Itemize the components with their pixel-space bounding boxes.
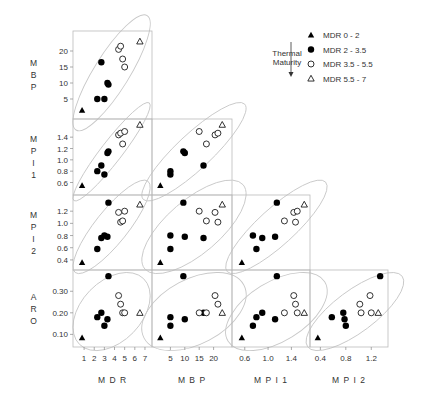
marker-filled-circle	[250, 323, 256, 329]
panel-frame	[152, 270, 232, 347]
marker-open-circle	[215, 130, 221, 136]
confidence-ellipse	[127, 164, 260, 289]
x-tick-label: 4	[112, 354, 117, 363]
legend-entry: MDR 5.5 - 7	[308, 75, 367, 84]
legend-title: Thermal	[272, 49, 302, 58]
marker-open-circle	[293, 301, 299, 307]
x-tick-label: 0.6	[239, 354, 251, 363]
y-axis-label: M	[30, 210, 38, 220]
marker-open-triangle	[137, 38, 143, 44]
marker-open-circle	[122, 310, 128, 316]
panel-frame	[73, 119, 152, 195]
marker-open-circle	[293, 219, 299, 225]
marker-open-circle	[357, 301, 363, 307]
marker-open-circle	[308, 61, 314, 67]
marker-open-circle	[215, 301, 221, 307]
y-tick-label: 15	[59, 63, 68, 72]
x-tick-label: 5	[122, 354, 127, 363]
marker-open-circle	[122, 208, 128, 214]
legend-label: MDR 2 - 3.5	[323, 46, 367, 55]
marker-filled-circle	[167, 232, 173, 238]
arrow-head-icon	[289, 72, 294, 77]
y-tick-label: 1.0	[57, 156, 69, 165]
y-axis-label: M	[30, 134, 38, 144]
panel-MPI2-vs-MPI1	[215, 169, 338, 286]
marker-filled-circle	[167, 171, 173, 177]
marker-filled-circle	[253, 246, 259, 252]
y-axis-label: I	[32, 158, 35, 168]
marker-filled-circle	[167, 246, 173, 252]
y-axis-label: A	[31, 292, 38, 302]
confidence-ellipse	[58, 258, 165, 366]
marker-open-circle	[122, 64, 128, 70]
panel-ARO-vs-MPI2	[295, 260, 414, 364]
marker-open-circle	[291, 293, 297, 299]
x-tick-label: 1.0	[263, 354, 275, 363]
marker-filled-circle	[200, 162, 206, 168]
y-tick-label: 1.0	[57, 219, 69, 228]
marker-filled-circle	[98, 59, 104, 65]
marker-open-triangle	[137, 122, 143, 128]
panel-frame	[73, 270, 152, 347]
marker-filled-circle	[180, 273, 186, 279]
marker-filled-circle	[105, 199, 111, 205]
marker-filled-triangle	[308, 32, 314, 38]
y-axis-label: B	[31, 70, 38, 80]
panel-frame	[232, 270, 310, 347]
x-tick-label: 1.4	[286, 354, 298, 363]
marker-filled-triangle	[79, 107, 85, 113]
y-axis-label: P	[31, 222, 38, 232]
marker-filled-circle	[272, 316, 278, 322]
x-axis-label: M D R	[98, 375, 127, 385]
marker-filled-circle	[272, 234, 278, 240]
confidence-ellipse	[295, 260, 414, 364]
marker-open-triangle	[137, 201, 143, 207]
marker-open-circle	[203, 141, 209, 147]
marker-open-circle	[367, 293, 373, 299]
marker-open-triangle	[219, 201, 225, 207]
y-tick-label: 0.6	[57, 179, 69, 188]
marker-open-circle	[196, 208, 202, 214]
marker-open-circle	[212, 293, 218, 299]
y-tick-label: 20	[59, 47, 68, 56]
marker-filled-circle	[329, 314, 335, 320]
marker-open-triangle	[308, 75, 314, 81]
y-tick-label: 10	[59, 79, 68, 88]
marker-open-circle	[294, 310, 300, 316]
y-tick-label: 0.10	[52, 330, 68, 339]
marker-filled-circle	[308, 46, 314, 52]
marker-filled-circle	[104, 234, 110, 240]
confidence-ellipse	[131, 91, 256, 212]
marker-filled-circle	[94, 96, 100, 102]
marker-open-circle	[281, 310, 287, 316]
marker-filled-triangle	[157, 259, 163, 265]
confidence-ellipse	[62, 171, 160, 283]
marker-filled-circle	[94, 168, 100, 174]
marker-filled-circle	[105, 81, 111, 87]
panel-MPI1-vs-MBP	[131, 91, 256, 212]
legend-title: Maturity	[273, 58, 301, 67]
x-tick-label: 6	[133, 354, 138, 363]
y-tick-label: 0.8	[57, 167, 69, 176]
marker-open-triangle	[219, 122, 225, 128]
marker-open-circle	[118, 301, 124, 307]
marker-filled-circle	[180, 148, 186, 154]
marker-filled-circle	[167, 323, 173, 329]
marker-filled-circle	[104, 316, 110, 322]
y-axis-label: I	[32, 234, 35, 244]
marker-open-circle	[203, 218, 209, 224]
marker-filled-circle	[182, 234, 188, 240]
panel-MPI2-vs-MBP	[127, 164, 260, 289]
y-axis-label: R	[30, 304, 37, 314]
marker-filled-circle	[98, 162, 104, 168]
marker-filled-circle	[105, 273, 111, 279]
marker-open-circle	[120, 218, 126, 224]
marker-filled-circle	[101, 96, 107, 102]
y-axis-label: 2	[31, 246, 37, 256]
marker-open-circle	[294, 208, 300, 214]
y-axis-label: 1	[31, 170, 37, 180]
x-tick-label: 0.8	[340, 354, 352, 363]
y-tick-label: 0.20	[52, 309, 68, 318]
marker-filled-circle	[259, 310, 265, 316]
marker-filled-circle	[274, 199, 280, 205]
